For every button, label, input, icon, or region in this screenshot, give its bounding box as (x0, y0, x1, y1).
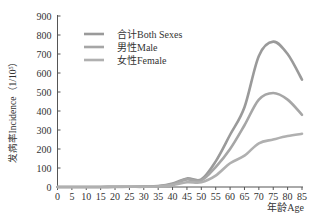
x-tick-label: 10 (81, 191, 91, 202)
x-tick-label: 5 (69, 191, 74, 202)
x-tick-label: 55 (211, 191, 221, 202)
x-tick-label: 25 (124, 191, 134, 202)
y-tick-label: 300 (37, 125, 52, 136)
y-tick-label: 600 (37, 68, 52, 79)
legend: 合计Both Sexes男性Male女性Female (84, 28, 182, 66)
x-tick-label: 65 (239, 191, 249, 202)
x-axis-label: 年龄Age (267, 201, 304, 213)
y-tick-label: 800 (37, 30, 52, 41)
x-tick-label: 85 (297, 191, 307, 202)
x-tick-label: 40 (168, 191, 178, 202)
legend-label-1: 男性Male (117, 41, 158, 53)
y-tick-label: 0 (47, 182, 52, 193)
x-tick-label: 15 (96, 191, 106, 202)
x-tick-label: 50 (196, 191, 206, 202)
y-tick-label: 400 (37, 106, 52, 117)
series-lines (58, 42, 303, 187)
legend-label-0: 合计Both Sexes (117, 28, 182, 40)
x-tick-label: 80 (283, 191, 293, 202)
x-tick-label: 75 (268, 191, 278, 202)
legend-label-2: 女性Female (117, 54, 167, 66)
y-tick-label: 700 (37, 49, 52, 60)
y-tick-label: 500 (37, 87, 52, 98)
series-line-2 (58, 134, 303, 187)
x-tick-label: 60 (225, 191, 235, 202)
y-axis-label: 发病率Incidence（1/105） (7, 57, 18, 164)
incidence-line-chart: 0100200300400500600700800900051015202530… (0, 0, 322, 224)
x-tick-label: 70 (254, 191, 264, 202)
x-tick-label: 30 (139, 191, 149, 202)
y-tick-label: 200 (37, 144, 52, 155)
x-tick-label: 35 (153, 191, 163, 202)
y-tick-label: 900 (37, 11, 52, 22)
x-tick-label: 0 (55, 191, 60, 202)
x-tick-label: 45 (182, 191, 192, 202)
x-tick-label: 20 (110, 191, 120, 202)
y-tick-label: 100 (37, 163, 52, 174)
series-line-0 (58, 42, 303, 187)
